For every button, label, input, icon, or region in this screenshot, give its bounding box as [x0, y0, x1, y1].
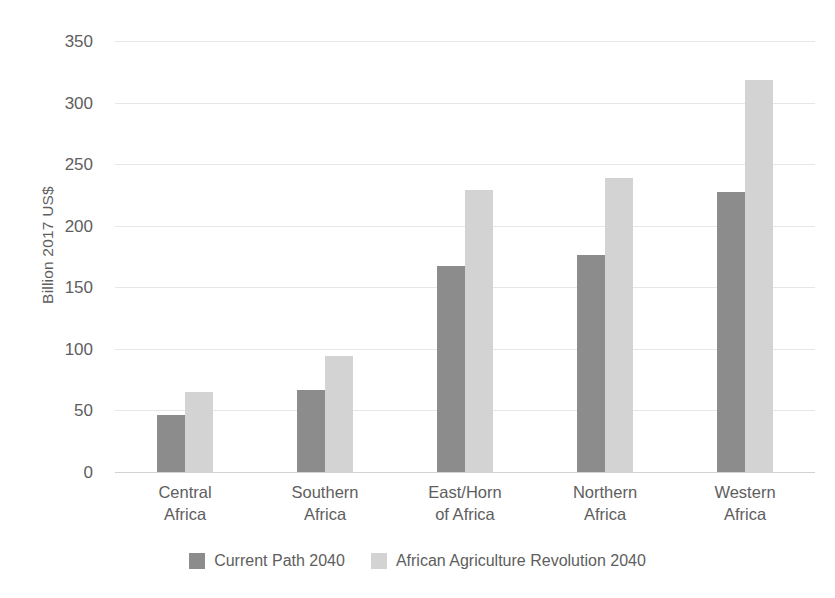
x-category-label: WesternAfrica	[675, 481, 815, 526]
x-category-label: East/Hornof Africa	[395, 481, 535, 526]
x-category-label-line: of Africa	[395, 503, 535, 525]
y-tick-label: 0	[33, 464, 93, 481]
x-category-label-line: Northern	[535, 481, 675, 503]
bar	[745, 80, 773, 472]
x-category-label-line: Africa	[535, 503, 675, 525]
x-category-label-line: Africa	[115, 503, 255, 525]
bar	[437, 266, 465, 472]
bar	[297, 390, 325, 473]
plot-area	[115, 41, 815, 472]
y-tick-label: 150	[33, 279, 93, 296]
x-axis-category-labels: CentralAfricaSouthernAfricaEast/Hornof A…	[115, 481, 815, 541]
bar	[325, 356, 353, 472]
x-category-label-line: Western	[675, 481, 815, 503]
y-axis-tick-labels: 350300250200150100500	[33, 41, 93, 472]
x-category-label-line: Southern	[255, 481, 395, 503]
x-category-label-line: Africa	[255, 503, 395, 525]
x-category-label: CentralAfrica	[115, 481, 255, 526]
bar	[185, 392, 213, 472]
y-tick-label: 200	[33, 217, 93, 234]
dark-gray-swatch	[189, 553, 205, 569]
bar	[717, 192, 745, 472]
bar-chart: Billion 2017 US$ 350300250200150100500 C…	[0, 0, 835, 598]
axis-baseline	[115, 472, 815, 473]
y-tick-label: 300	[33, 94, 93, 111]
bar	[577, 255, 605, 472]
x-category-label-line: Central	[115, 481, 255, 503]
legend-label: Current Path 2040	[214, 552, 345, 570]
legend-item[interactable]: Current Path 2040	[189, 552, 345, 570]
bar	[465, 190, 493, 472]
x-category-label-line: East/Horn	[395, 481, 535, 503]
x-category-label: NorthernAfrica	[535, 481, 675, 526]
legend-label: African Agriculture Revolution 2040	[396, 552, 646, 570]
bars-layer	[115, 41, 815, 472]
x-category-label-line: Africa	[675, 503, 815, 525]
bar	[605, 178, 633, 472]
x-category-label: SouthernAfrica	[255, 481, 395, 526]
y-tick-label: 100	[33, 340, 93, 357]
bar	[157, 415, 185, 472]
y-tick-label: 350	[33, 33, 93, 50]
light-gray-swatch	[371, 553, 387, 569]
legend-item[interactable]: African Agriculture Revolution 2040	[371, 552, 646, 570]
y-tick-label: 250	[33, 156, 93, 173]
chart-legend: Current Path 2040African Agriculture Rev…	[0, 552, 835, 570]
y-tick-label: 50	[33, 402, 93, 419]
